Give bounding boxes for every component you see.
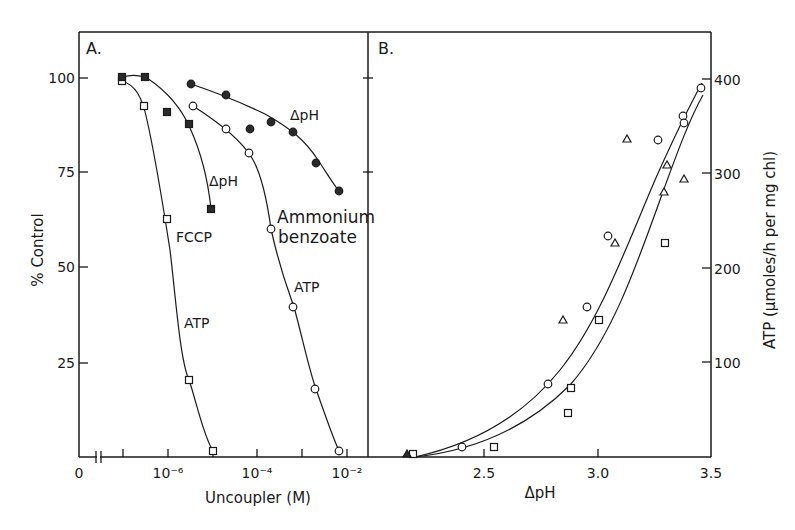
ab-atp-markers — [189, 102, 343, 455]
panel-b-y-ticks: 400 300 200 100 — [702, 72, 741, 371]
panel-b-square-markers — [410, 240, 669, 458]
fccp-atp-label: ATP — [184, 315, 209, 331]
fccp-atp-markers — [119, 78, 217, 455]
ammonium-benzoate-label-line1: Ammonium — [277, 207, 375, 227]
panel-a-x-ticks: 0 10⁻⁶ 10⁻⁴ 10⁻² — [75, 449, 363, 481]
panel-b-x-label: ΔpH — [524, 484, 555, 502]
figure: A. B. 100 75 50 25 % Control 0 10⁻⁶ 10⁻⁴… — [0, 0, 795, 530]
x-tick-3.0: 3.0 — [587, 465, 609, 481]
ab-dph-label: ΔpH — [290, 107, 319, 123]
y-tick-50: 50 — [57, 259, 75, 275]
y-tick-100: 100 — [714, 355, 741, 371]
y-tick-300: 300 — [714, 166, 741, 182]
x-tick-3.5: 3.5 — [700, 465, 722, 481]
ab-atp-label: ATP — [294, 279, 319, 295]
fccp-dph-label: ΔpH — [209, 173, 238, 189]
panel-b-y-label: ATP (μmoles/h per mg chl) — [761, 151, 779, 349]
panel-b-circle-markers — [458, 84, 705, 451]
panel-a-curves — [122, 76, 339, 451]
y-tick-400: 400 — [714, 72, 741, 88]
x-tick-1e-4: 10⁻⁴ — [242, 465, 273, 481]
y-tick-25: 25 — [57, 355, 75, 371]
panel-a-x-label: Uncoupler (M) — [205, 489, 311, 507]
x-tick-1e-6: 10⁻⁶ — [153, 465, 184, 481]
panel-a-label: A. — [86, 39, 102, 58]
y-tick-75: 75 — [57, 164, 75, 180]
ammonium-benzoate-label-line2: benzoate — [278, 227, 357, 247]
panel-b-label: B. — [378, 39, 394, 58]
x-tick-1e-2: 10⁻² — [332, 465, 363, 481]
panel-a-y-label: % Control — [29, 213, 47, 286]
y-tick-200: 200 — [714, 261, 741, 277]
panel-b-x-ticks: 2.5 3.0 3.5 — [473, 449, 722, 481]
panel-b-triangle-markers — [403, 135, 688, 457]
fccp-label: FCCP — [176, 229, 212, 245]
x-tick-0: 0 — [75, 465, 84, 481]
y-tick-100: 100 — [48, 70, 75, 86]
x-tick-2.5: 2.5 — [473, 465, 495, 481]
